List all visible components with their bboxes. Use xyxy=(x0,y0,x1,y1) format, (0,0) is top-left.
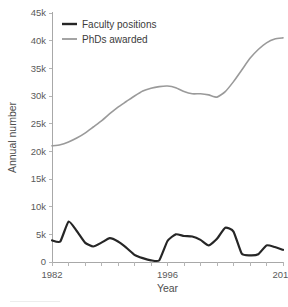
y-tick-label: 10k xyxy=(31,201,47,212)
line-chart-svg: 05k10k15k20k25k30k35k40k45k198219962010F… xyxy=(0,0,288,307)
y-tick-label: 45k xyxy=(31,7,47,18)
x-axis-title: Year xyxy=(157,282,179,294)
y-tick-label: 20k xyxy=(31,146,47,157)
y-tick-label: 30k xyxy=(31,90,47,101)
y-tick-label: 0 xyxy=(41,256,46,267)
series-line-faculty-positions xyxy=(52,222,283,262)
y-tick-label: 15k xyxy=(31,173,47,184)
legend-label-faculty-positions: Faculty positions xyxy=(82,19,156,30)
x-tick-label: 1996 xyxy=(157,269,178,280)
x-tick-label: 2010 xyxy=(272,269,288,280)
y-tick-label: 25k xyxy=(31,118,47,129)
chart-figure: 05k10k15k20k25k30k35k40k45k198219962010F… xyxy=(0,0,288,307)
y-axis-title: Annual number xyxy=(6,101,18,173)
legend-label-phds-awarded: PhDs awarded xyxy=(82,34,148,45)
y-tick-label: 5k xyxy=(36,229,46,240)
x-tick-label: 1982 xyxy=(41,269,62,280)
series-line-phds-awarded xyxy=(52,38,283,146)
y-tick-label: 40k xyxy=(31,35,47,46)
y-tick-label: 35k xyxy=(31,63,47,74)
